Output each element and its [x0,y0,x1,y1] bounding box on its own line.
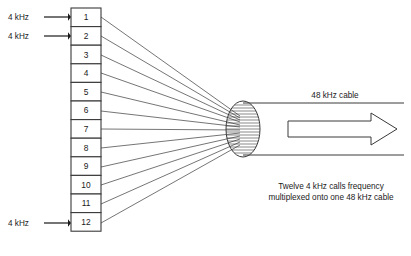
channel-box[interactable]: 9 [71,157,101,176]
channel-box[interactable]: 4 [71,64,101,83]
fan-line [101,92,240,125]
flow-arrow-icon [288,113,397,145]
fan-line [101,73,240,122]
channel-box[interactable]: 11 [71,194,101,213]
channel-box[interactable]: 3 [71,45,101,64]
input-label-channel-12: 4 kHz [8,219,29,228]
channel-box[interactable]: 5 [71,82,101,101]
fan-line [101,111,240,127]
fan-line [101,36,240,118]
fan-line [101,129,240,130]
fan-lines-group [101,17,240,223]
channel-number: 1 [84,12,89,22]
fan-line [101,145,240,223]
caption-line-2: multiplexed onto one 48 kHz cable [268,193,394,202]
diagram-canvas: 1 2 3 4 5 6 7 [0,0,411,256]
channel-number: 10 [81,180,91,190]
channel-number: 6 [84,105,89,115]
cable-label: 48 kHz cable [311,91,359,100]
caption-line-1: Twelve 4 kHz calls frequency [278,182,384,191]
channel-number: 7 [84,124,89,134]
channel-box[interactable]: 2 [71,27,101,46]
channel-number: 12 [81,217,91,227]
input-arrows-group [44,13,71,227]
channel-number: 8 [84,143,89,153]
cable-cross-section [224,101,262,157]
channel-box[interactable]: 10 [71,175,101,194]
multiplexing-diagram: 1 2 3 4 5 6 7 [0,0,411,256]
fan-line [101,17,240,116]
channel-number: 11 [82,198,91,208]
input-label-channel-2: 4 kHz [8,32,29,41]
channel-box[interactable]: 7 [71,120,101,139]
channel-box[interactable]: 6 [71,101,101,120]
channel-box[interactable]: 1 [71,8,101,27]
channel-number: 2 [84,31,89,41]
channel-number: 5 [84,87,89,97]
channel-number: 3 [84,50,89,60]
input-label-channel-1: 4 kHz [8,13,29,22]
channel-number: 9 [84,161,89,171]
channel-stack: 1 2 3 4 5 6 7 [71,8,101,231]
channel-box[interactable]: 8 [71,138,101,157]
channel-number: 4 [84,68,89,78]
channel-box[interactable]: 12 [71,213,101,232]
fan-line [101,55,240,120]
